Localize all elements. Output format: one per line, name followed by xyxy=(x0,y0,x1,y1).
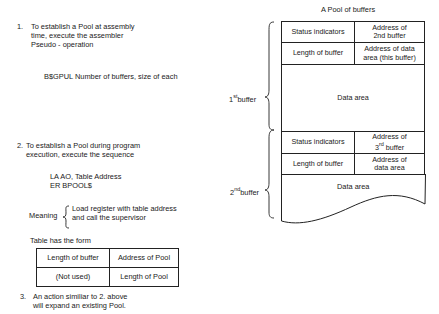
item-2-number: 2. xyxy=(17,142,23,151)
table-row: Length of buffer Address of Pool xyxy=(37,249,179,268)
meaning-label: Meaning xyxy=(29,212,57,221)
buffer-1-data-address: Address of data area (this buffer) xyxy=(354,42,425,65)
item-1-code: B$GPUL Number of buffers, size of each xyxy=(44,73,178,82)
table-cell: Length of buffer xyxy=(37,249,110,268)
item-1-number: 1. xyxy=(17,23,23,32)
table-caption: Table has the form xyxy=(30,237,91,246)
buffer-2-status: Status indicators xyxy=(281,131,355,154)
table-cell: Address of Pool xyxy=(110,249,179,268)
buffer-braces-icon xyxy=(262,20,278,222)
buffer-2-data-area: Data area xyxy=(337,183,369,192)
item-2-code-line-2: ER BPOOL$ xyxy=(50,182,92,191)
item-1-line-3: Pseudo - operation xyxy=(31,41,93,50)
buffer-1-status: Status indicators xyxy=(281,21,355,43)
table-row: (Not used) Length of Pool xyxy=(37,268,179,287)
buffer-1-length: Length of buffer xyxy=(281,42,355,65)
buffer-2-next-address: Address of 3rd buffer xyxy=(354,131,425,154)
item-3-line-2: will expand an existing Pool. xyxy=(33,302,126,311)
item-2-line-2: execution, execute the sequence xyxy=(26,151,134,160)
table-cell: Length of Pool xyxy=(110,268,179,287)
table-cell: (Not used) xyxy=(37,268,110,287)
buffer-2-label: 2ndbuffer xyxy=(230,186,259,198)
meaning-brace-icon xyxy=(62,205,70,229)
pool-table: Length of buffer Address of Pool (Not us… xyxy=(36,248,179,287)
item-3-number: 3. xyxy=(20,293,26,302)
buffer-2-data-address: Address of data area xyxy=(354,153,425,175)
buffer-1-data-area: Data area xyxy=(281,64,425,132)
buffer-1-next-address: Address of 2nd buffer xyxy=(354,21,425,43)
buffer-2-length: Length of buffer xyxy=(281,153,355,175)
diagram-title: A Pool of buffers xyxy=(321,6,375,15)
meaning-line-2: and call the supervisor xyxy=(72,214,146,223)
buffer-1-label: 1stbuffer xyxy=(229,93,256,105)
